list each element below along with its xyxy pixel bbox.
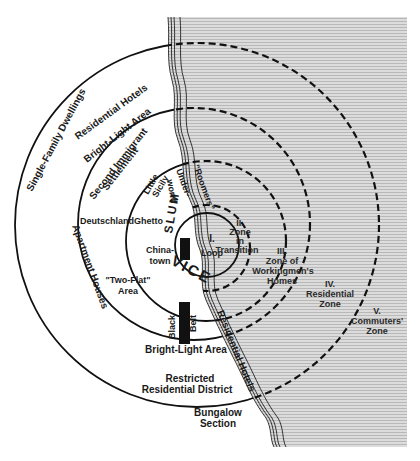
zone-4-numeral: IV. xyxy=(325,279,335,289)
zone-1-numeral: I. xyxy=(209,233,215,244)
zone-3-line2: Workingmen's xyxy=(252,266,313,276)
label-chinatown-1: China- xyxy=(146,245,174,255)
zone-3-line1: Zone of xyxy=(266,256,299,266)
label-belt: Belt xyxy=(188,315,198,332)
zone-4-line1: Residential xyxy=(306,289,354,299)
concentric-zone-diagram: I. Loop II. Zone in Transition III. Zone… xyxy=(0,0,420,461)
zone-2-line3: Transition xyxy=(215,245,258,255)
label-deutschland: Deutschland xyxy=(80,216,134,226)
label-bright-light-bottom: Bright-Light Area xyxy=(145,344,227,355)
label-restricted-2: Residential District xyxy=(142,384,233,395)
label-bungalow-1: Bungalow xyxy=(194,407,242,418)
zone-5-line2: Zone xyxy=(366,326,388,336)
zone-5-line1: Commuters' xyxy=(351,316,403,326)
label-black: Black xyxy=(167,314,177,339)
label-ghetto: Ghetto xyxy=(134,216,163,226)
label-restricted-1: Restricted xyxy=(166,373,215,384)
label-chinatown-2: town xyxy=(150,256,171,266)
label-bungalow-2: Section xyxy=(200,418,236,429)
zone-5-numeral: V. xyxy=(373,306,381,316)
zone-3-numeral: III. xyxy=(277,246,287,256)
label-two-flat-1: "Two-Flat" xyxy=(106,275,151,285)
zone-3-line3: Homes xyxy=(267,276,297,286)
label-two-flat-2: Area xyxy=(118,286,139,296)
label-apartment-houses: Apartment Houses xyxy=(70,223,111,311)
zone-4-line2: Zone xyxy=(319,299,341,309)
